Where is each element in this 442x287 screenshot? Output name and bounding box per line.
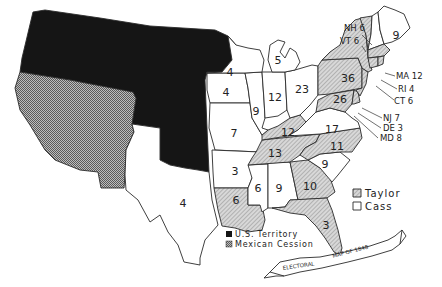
vote-LA: 6 (233, 194, 240, 207)
legend-cession-label: Mexican Cession (235, 240, 314, 249)
electoral-map: 4 5 4 9 12 23 7 3 6 6 9 10 3 9 13 11 12 … (0, 0, 442, 287)
vote-WI: 4 (227, 66, 234, 79)
vote-TN: 13 (268, 147, 282, 160)
vote-ME: 9 (393, 29, 400, 42)
vote-NC: 11 (330, 140, 344, 153)
vote-FL: 3 (323, 219, 330, 232)
label-VT: VT 6 (340, 36, 359, 46)
vote-GA: 10 (303, 180, 317, 193)
vote-OH: 23 (295, 83, 309, 96)
state-RI (378, 56, 384, 66)
label-NJ: NJ 7 (383, 113, 400, 123)
vote-IN: 12 (268, 91, 282, 104)
vote-AR: 3 (232, 165, 239, 178)
state-PA (318, 58, 362, 95)
vote-IL: 9 (253, 105, 260, 118)
vote-MO: 7 (231, 127, 238, 140)
vote-AL: 9 (276, 182, 283, 195)
label-MD: MD 8 (380, 133, 402, 143)
label-CT: CT 6 (394, 96, 413, 106)
vote-PA: 26 (333, 93, 347, 106)
vote-NY: 36 (341, 72, 355, 85)
legend-taylor-swatch (353, 189, 361, 197)
vote-MS: 6 (255, 182, 262, 195)
mexican-cession-region (15, 72, 136, 188)
legend-cass-swatch (353, 202, 361, 210)
vote-VA: 17 (325, 123, 339, 136)
legend-taylor-label: Taylor (364, 188, 401, 199)
state-MI (268, 40, 300, 72)
vote-IA: 4 (223, 86, 230, 99)
vote-KY: 12 (281, 126, 295, 139)
label-RI: RI 4 (398, 84, 415, 94)
vote-TX: 4 (180, 197, 187, 210)
legend-territory-label: U.S. Territory (235, 230, 298, 239)
vote-SC: 9 (322, 158, 329, 171)
legend-cass-label: Cass (365, 201, 393, 212)
label-DE: DE 3 (383, 123, 403, 133)
label-NH: NH 6 (344, 23, 365, 33)
label-MA: MA 12 (396, 71, 423, 81)
state-CT (368, 57, 378, 68)
vote-MI: 5 (275, 54, 282, 67)
legend-cession-swatch (226, 241, 232, 247)
legend-territory-swatch (226, 231, 232, 237)
